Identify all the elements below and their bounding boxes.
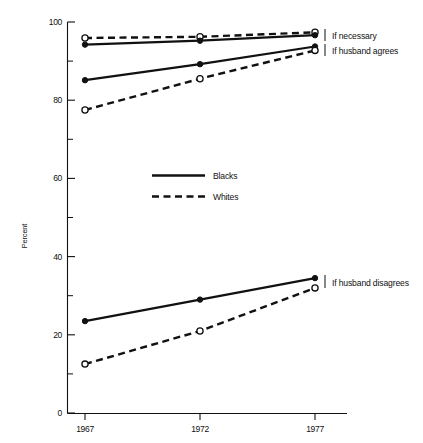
annotation-label: If husband agrees <box>332 46 398 56</box>
x-tick-label-1972: 1972 <box>191 424 209 434</box>
point-open-circle <box>197 76 203 82</box>
axis-group <box>68 22 348 420</box>
y-tick-label-60: 60 <box>53 173 62 183</box>
x-tick-labels: 1967 1972 1977 <box>76 424 324 434</box>
point-open-circle <box>312 285 318 291</box>
point-filled-circle <box>82 78 87 83</box>
point-filled-circle <box>197 38 202 43</box>
series-whites-if-husband-agrees <box>82 47 318 113</box>
legend-label-blacks: Blacks <box>213 171 237 181</box>
point-filled-circle <box>82 318 87 323</box>
point-filled-circle <box>312 33 317 38</box>
annotation-label: If necessary <box>332 31 377 41</box>
y-tick-label-0: 0 <box>58 408 63 418</box>
point-filled-circle <box>197 297 202 302</box>
y-axis-title: Percent <box>20 223 29 249</box>
legend-label-whites: Whites <box>213 192 238 202</box>
annotation-if-husband-disagrees: If husband disagrees <box>325 275 409 288</box>
point-open-circle <box>82 35 88 41</box>
y-tick-label-40: 40 <box>53 252 62 262</box>
annotation-if-necessary: If necessary <box>325 29 377 41</box>
y-tick-label-80: 80 <box>53 95 62 105</box>
point-open-circle <box>312 47 318 53</box>
annotation-label: If husband disagrees <box>332 278 409 288</box>
y-tick-label-20: 20 <box>53 330 62 340</box>
point-filled-circle <box>197 61 202 66</box>
point-open-circle <box>82 361 88 367</box>
chart-container: 100 80 60 40 20 0 1967 1972 1977 Percent <box>0 0 423 443</box>
point-filled-circle <box>82 42 87 47</box>
y-tick-labels: 100 80 60 40 20 0 <box>49 17 63 418</box>
point-open-circle <box>82 107 88 113</box>
point-filled-circle <box>312 275 317 280</box>
line-chart: 100 80 60 40 20 0 1967 1972 1977 Percent <box>0 0 423 443</box>
annotation-if-husband-agrees: If husband agrees <box>325 44 398 56</box>
x-tick-label-1967: 1967 <box>76 424 94 434</box>
y-tick-label-100: 100 <box>49 17 63 27</box>
x-tick-label-1977: 1977 <box>306 424 324 434</box>
chart-legend: Blacks Whites <box>152 171 238 202</box>
point-open-circle <box>197 328 203 334</box>
